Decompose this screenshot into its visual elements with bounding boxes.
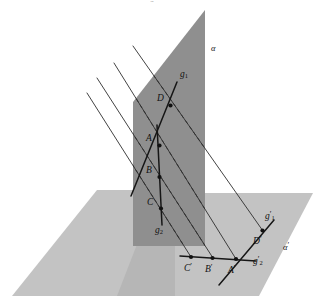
vertical-plane-shape — [133, 10, 205, 246]
line-g1-label: g1 — [180, 70, 188, 80]
point-A-label: A — [146, 134, 152, 144]
point-B-prime-label: B′ — [205, 264, 213, 275]
point-B — [157, 175, 161, 179]
line-g2-label: g2 — [155, 226, 163, 236]
geometry-figure — [0, 0, 324, 308]
plane-alpha-label: α — [211, 44, 215, 53]
point-A — [157, 143, 161, 147]
point-A-prime-label: A′ — [228, 265, 236, 276]
diagram-canvas: g α α′ g1 g2 g′1 g′2 D A B C D′ A′ B′ C′ — [0, 0, 324, 308]
point-B-label: B — [146, 166, 152, 176]
point-C-label: C — [147, 198, 153, 208]
top-clipped-fragment: g — [150, 0, 154, 2]
point-C-prime — [189, 255, 193, 259]
point-A-prime — [234, 257, 238, 261]
point-C — [159, 206, 163, 210]
line-g2-prime-label: g′2 — [253, 256, 263, 267]
point-C-prime-label: C′ — [184, 263, 192, 274]
point-D-label: D — [157, 94, 164, 104]
vertical-plane-alpha — [133, 10, 205, 246]
point-D-prime — [260, 228, 264, 232]
point-D-prime-label: D′ — [253, 236, 262, 247]
plane-alpha-prime-label: α′ — [283, 242, 289, 252]
line-g1-prime-label: g′1 — [265, 211, 275, 222]
point-D — [168, 103, 172, 107]
point-B-prime — [210, 256, 214, 260]
